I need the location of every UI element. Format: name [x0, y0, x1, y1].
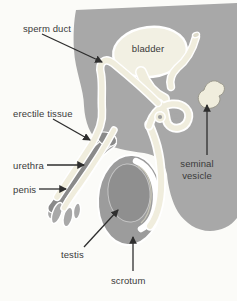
label-bladder: bladder: [120, 43, 176, 55]
label-erectile-tissue: erectile tissue: [13, 108, 73, 120]
foreskin-fold-3: [72, 203, 81, 220]
label-sperm-duct: sperm duct: [23, 23, 71, 35]
label-seminal-vesicle: seminal vesicle: [170, 158, 224, 181]
diagram-canvas: [0, 0, 237, 301]
male-reproductive-diagram: sperm duct bladder erectile tissue ureth…: [0, 0, 237, 301]
label-scrotum: scrotum: [111, 275, 145, 287]
label-urethra: urethra: [13, 160, 44, 172]
prostate-hole: [158, 115, 162, 119]
label-testis: testis: [61, 249, 84, 261]
duct-coil-hole: [173, 113, 179, 119]
erectile-tissue-arrow: [53, 119, 90, 140]
label-penis: penis: [13, 184, 36, 196]
